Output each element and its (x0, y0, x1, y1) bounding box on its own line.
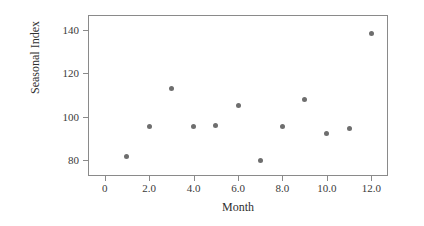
y-tick-mark (83, 73, 88, 74)
x-tick-label: 10.0 (307, 183, 347, 194)
x-tick-mark (371, 176, 372, 181)
x-tick-label: 4.0 (174, 183, 214, 194)
y-tick-mark (83, 117, 88, 118)
data-point (147, 124, 152, 129)
x-tick-mark (194, 176, 195, 181)
x-tick-mark (149, 176, 150, 181)
x-tick-label: 0 (85, 183, 125, 194)
y-tick-mark (83, 160, 88, 161)
data-point (347, 126, 352, 131)
data-point (169, 86, 174, 91)
data-point (236, 103, 241, 108)
data-point (369, 31, 374, 36)
x-tick-mark (238, 176, 239, 181)
x-tick-mark (327, 176, 328, 181)
x-tick-label: 2.0 (129, 183, 169, 194)
y-tick-mark (83, 30, 88, 31)
y-axis-label: Seasonal Index (28, 0, 43, 128)
x-tick-label: 6.0 (218, 183, 258, 194)
data-point (124, 154, 129, 159)
x-axis-label: Month (88, 200, 388, 215)
y-tick-label: 80 (19, 155, 79, 166)
data-point (324, 131, 329, 136)
x-tick-mark (105, 176, 106, 181)
scatter-plot-figure: 80100120140 02.04.06.08.010.012.0 Month … (0, 0, 424, 226)
plot-data-area (88, 15, 388, 176)
data-point (280, 124, 285, 129)
data-point (191, 124, 196, 129)
x-tick-label: 8.0 (262, 183, 302, 194)
x-tick-mark (282, 176, 283, 181)
data-point (258, 158, 263, 163)
data-point (213, 123, 218, 128)
x-tick-label: 12.0 (351, 183, 391, 194)
data-point (302, 97, 307, 102)
